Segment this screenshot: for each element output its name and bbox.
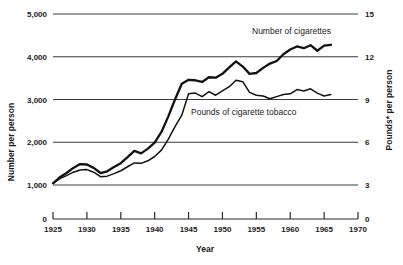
y-axis-left-labels: 1,0002,0003,0004,0005,0000 <box>27 10 48 224</box>
x-tick-label-1950: 1950 <box>214 225 232 234</box>
y-tick-label-left-2000: 2,000 <box>27 138 48 147</box>
x-tick-label-1925: 1925 <box>44 225 62 234</box>
x-tick-label-1935: 1935 <box>112 225 130 234</box>
y-tick-label-right-6: 6 <box>365 138 370 147</box>
series-label-tobacco: Pounds of cigarette tobacco <box>191 107 297 117</box>
y-tick-label-left-5000: 5,000 <box>27 10 48 19</box>
x-tick-label-1945: 1945 <box>180 225 198 234</box>
x-axis-group: 1925193019351940194519501955196019651970 <box>44 212 367 234</box>
y-axis-left-title: Number per person <box>6 103 16 181</box>
line-chart-canvas: 1925193019351940194519501955196019651970… <box>0 0 403 265</box>
y-tick-label-right-zero: 0 <box>365 215 370 224</box>
x-tick-label-1965: 1965 <box>315 225 333 234</box>
y-tick-label-left-1000: 1,000 <box>27 181 48 190</box>
gridlines-group <box>53 14 358 185</box>
x-tick-label-1955: 1955 <box>247 225 265 234</box>
series-label-cigarettes: Number of cigarettes <box>252 26 331 36</box>
x-tick-label-1960: 1960 <box>281 225 299 234</box>
y-tick-label-right-3: 3 <box>365 181 370 190</box>
y-tick-label-right-9: 9 <box>365 96 370 105</box>
y-tick-label-right-15: 15 <box>365 10 374 19</box>
y-axis-right-labels: 36912150 <box>365 10 374 224</box>
y-tick-label-right-12: 12 <box>365 53 374 62</box>
x-axis-title: Year <box>196 244 215 254</box>
chart-figure: 1925193019351940194519501955196019651970… <box>0 0 403 265</box>
x-tick-label-1970: 1970 <box>349 225 367 234</box>
y-tick-label-left-zero: 0 <box>43 215 48 224</box>
x-tick-label-1940: 1940 <box>146 225 164 234</box>
y-tick-label-left-3000: 3,000 <box>27 96 48 105</box>
x-tick-label-1930: 1930 <box>78 225 96 234</box>
y-tick-label-left-4000: 4,000 <box>27 53 48 62</box>
y-axis-right-title: Pounds* per person <box>384 70 394 151</box>
